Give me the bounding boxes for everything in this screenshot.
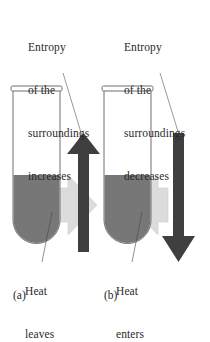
caption-line: decreases	[124, 169, 185, 183]
caption-line: Entropy	[124, 40, 185, 54]
caption-line: increases	[28, 169, 89, 183]
entropy-caption-a: Entropy of the surroundings increases	[28, 11, 89, 198]
caption-line: surroundings	[28, 126, 89, 140]
caption-line: surroundings	[124, 126, 185, 140]
caption-line: of the	[124, 83, 185, 97]
caption-line: Heat	[116, 284, 144, 298]
caption-line: leaves	[25, 327, 54, 341]
caption-line: Entropy	[28, 40, 89, 54]
panel-label-a: (a)	[13, 288, 26, 302]
heat-caption-a: Heat leaves	[25, 255, 54, 342]
entropy-caption-b: Entropy of the surroundings decreases	[124, 11, 185, 198]
heat-caption-b: Heat enters	[116, 255, 144, 342]
panel-label-b: (b)	[104, 288, 117, 302]
caption-line: Heat	[25, 284, 54, 298]
caption-line: of the	[28, 83, 89, 97]
caption-line: enters	[116, 327, 144, 341]
